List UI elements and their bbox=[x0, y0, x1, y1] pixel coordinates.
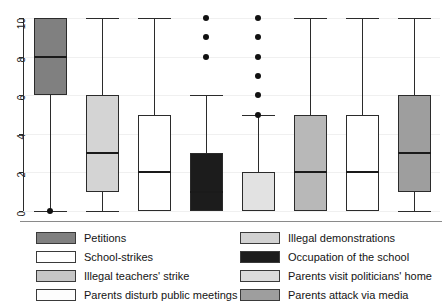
legend-swatch bbox=[240, 251, 280, 263]
whisker-upper bbox=[414, 18, 415, 95]
legend-swatch bbox=[240, 270, 280, 282]
whisker-cap-lower bbox=[398, 211, 431, 212]
median-line bbox=[346, 171, 379, 173]
median-line bbox=[398, 152, 431, 154]
whisker-cap-upper bbox=[398, 18, 431, 19]
outlier-point bbox=[255, 92, 261, 98]
outlier-point bbox=[203, 54, 209, 60]
y-tick-mark bbox=[19, 95, 23, 96]
y-tick-mark bbox=[19, 57, 23, 58]
box-plot-item bbox=[76, 14, 128, 211]
whisker-upper bbox=[362, 18, 363, 115]
whisker-cap-upper bbox=[190, 95, 223, 96]
legend-label: Petitions bbox=[84, 231, 126, 245]
boxplot-figure: 0246810 PetitionsSchool-strikesIllegal t… bbox=[0, 0, 446, 308]
legend-label: Parents disturb public meetings bbox=[84, 288, 237, 302]
legend: PetitionsSchool-strikesIllegal teachers'… bbox=[0, 230, 446, 308]
whisker-cap-upper bbox=[138, 18, 171, 19]
y-tick-mark bbox=[19, 211, 23, 212]
legend-swatch bbox=[36, 251, 76, 263]
outlier-point bbox=[203, 15, 209, 21]
outlier-point bbox=[255, 112, 261, 118]
outlier-point bbox=[203, 34, 209, 40]
legend-label: School-strikes bbox=[84, 250, 153, 264]
outlier-point bbox=[47, 208, 53, 214]
box-rect bbox=[398, 95, 431, 192]
median-line bbox=[190, 191, 223, 193]
box-rect bbox=[294, 115, 327, 212]
box-plot-item bbox=[388, 14, 440, 211]
whisker-upper bbox=[102, 18, 103, 95]
median-line bbox=[86, 152, 119, 154]
plot-area: 0246810 bbox=[0, 0, 446, 226]
box-plot-item bbox=[284, 14, 336, 211]
whisker-cap-lower bbox=[86, 211, 119, 212]
legend-swatch bbox=[36, 270, 76, 282]
median-line bbox=[294, 171, 327, 173]
whisker-lower bbox=[414, 192, 415, 211]
box-rect bbox=[138, 115, 171, 212]
outlier-point bbox=[255, 73, 261, 79]
whisker-upper bbox=[310, 18, 311, 115]
whisker-cap-upper bbox=[86, 18, 119, 19]
whisker-upper bbox=[154, 18, 155, 115]
whisker-lower bbox=[50, 95, 51, 211]
y-tick-mark bbox=[19, 172, 23, 173]
legend-label: Illegal demonstrations bbox=[288, 231, 395, 245]
legend-swatch bbox=[36, 289, 76, 301]
outlier-point bbox=[255, 15, 261, 21]
box-plot-item bbox=[24, 14, 76, 211]
whisker-upper bbox=[206, 95, 207, 153]
whisker-lower bbox=[102, 192, 103, 211]
whisker-cap-upper bbox=[346, 18, 379, 19]
box-plot-item bbox=[128, 14, 180, 211]
y-tick-mark bbox=[19, 18, 23, 19]
legend-label: Parents visit politicians' home bbox=[288, 269, 432, 283]
legend-label: Occupation of the school bbox=[288, 250, 409, 264]
box-rect bbox=[242, 172, 275, 211]
legend-swatch bbox=[240, 232, 280, 244]
y-axis: 0246810 bbox=[0, 0, 24, 226]
legend-label: Illegal teachers' strike bbox=[84, 269, 189, 283]
outlier-point bbox=[255, 34, 261, 40]
whisker-cap-upper bbox=[294, 18, 327, 19]
whisker-upper bbox=[258, 115, 259, 173]
plot-panel bbox=[24, 14, 440, 211]
y-tick-mark bbox=[19, 134, 23, 135]
legend-swatch bbox=[36, 232, 76, 244]
outlier-point bbox=[255, 54, 261, 60]
box-plot-item bbox=[232, 14, 284, 211]
median-line bbox=[138, 171, 171, 173]
x-axis-line bbox=[20, 221, 442, 222]
box-plot-item bbox=[180, 14, 232, 211]
box-rect bbox=[190, 153, 223, 211]
box-rect bbox=[86, 95, 119, 192]
legend-label: Parents attack via media bbox=[288, 288, 408, 302]
box-rect bbox=[346, 115, 379, 212]
median-line bbox=[34, 56, 67, 58]
legend-swatch bbox=[240, 289, 280, 301]
box-plot-item bbox=[336, 14, 388, 211]
